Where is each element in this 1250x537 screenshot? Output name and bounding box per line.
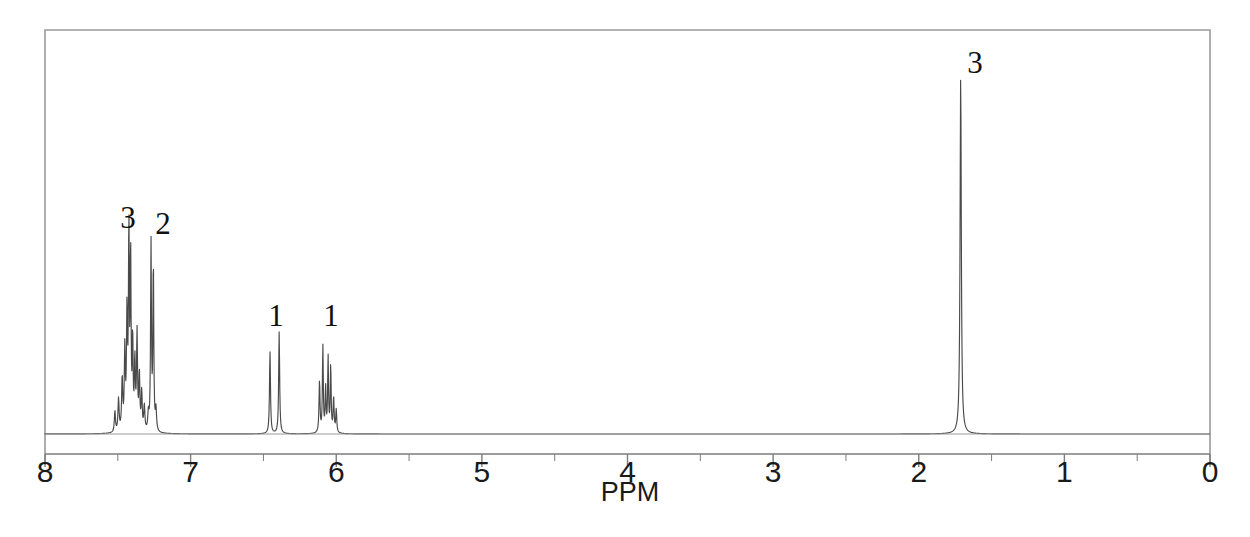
axis-tick-label: 7 [182,455,199,488]
integral-count-label: 1 [268,298,284,333]
integral-count-label: 3 [120,200,136,235]
axis-tick-label: 3 [765,455,782,488]
axis-tick-label: 0 [1202,455,1219,488]
axis-tick-label: 5 [474,455,491,488]
axis-tick-label: 8 [37,455,54,488]
axis-tick-label: 6 [328,455,345,488]
integral-count-label: 2 [155,206,171,241]
ppm-axis-title: PPM [601,477,660,507]
axis-tick-label: 2 [910,455,927,488]
integral-count-label: 3 [967,45,983,80]
axis-tick-label: 1 [1056,455,1073,488]
integral-count-label: 1 [323,298,339,333]
spectrum-canvas: 876543210 PPM 32113 [0,0,1250,537]
nmr-spectrum-figure: 876543210 PPM 32113 [0,0,1250,537]
